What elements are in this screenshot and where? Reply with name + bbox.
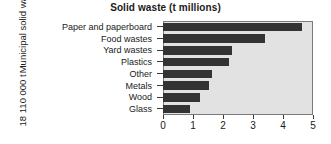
- bar-row: [163, 92, 313, 104]
- bar-row: [163, 56, 313, 68]
- x-axis-labels: 012345: [163, 120, 313, 134]
- bar-row: [163, 80, 313, 92]
- bars-layer: [163, 21, 313, 115]
- bar: [163, 70, 212, 79]
- bar: [163, 93, 200, 102]
- bar-row: [163, 33, 313, 45]
- bar-chart-figure: Solid waste (t millions) Municipal solid…: [0, 0, 331, 144]
- bar: [163, 58, 229, 67]
- bar-row: [163, 45, 313, 57]
- x-axis-tick-label: 1: [183, 120, 203, 132]
- category-label: Yard wastes: [0, 45, 155, 57]
- x-axis-tick-label: 4: [273, 120, 293, 132]
- bar-row: [163, 103, 313, 115]
- category-label: Food wastes: [0, 33, 155, 45]
- x-axis-tick: [163, 115, 164, 119]
- bar: [163, 23, 302, 32]
- x-axis-tick-label: 3: [243, 120, 263, 132]
- x-axis-tick-label: 0: [153, 120, 173, 132]
- x-axis-tick: [253, 115, 254, 119]
- x-axis-tick: [223, 115, 224, 119]
- x-axis-tick: [193, 115, 194, 119]
- bar: [163, 105, 190, 114]
- category-label: Plastics: [0, 56, 155, 68]
- bar: [163, 34, 265, 43]
- bar-row: [163, 68, 313, 80]
- category-label: Metals: [0, 80, 155, 92]
- bar: [163, 46, 232, 55]
- category-label: Other: [0, 68, 155, 80]
- chart-title: Solid waste (t millions): [0, 1, 331, 14]
- category-label: Wood: [0, 92, 155, 104]
- bar-row: [163, 21, 313, 33]
- category-axis-labels: Paper and paperboard Food wastes Yard wa…: [0, 21, 155, 115]
- x-axis-tick: [283, 115, 284, 119]
- category-label: Glass: [0, 103, 155, 115]
- x-axis-tick: [313, 115, 314, 119]
- x-axis-tick-label: 5: [303, 120, 323, 132]
- bar: [163, 81, 209, 90]
- x-axis-tick-label: 2: [213, 120, 233, 132]
- category-label: Paper and paperboard: [0, 21, 155, 33]
